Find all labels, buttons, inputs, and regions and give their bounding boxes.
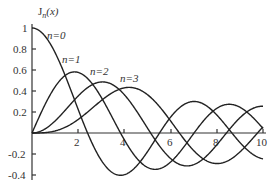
y-tick-1: 1 [22, 22, 28, 34]
y-axis-label: Jn(x) [38, 5, 59, 20]
x-tick-6: 6 [167, 136, 173, 148]
y-tick-0.8: 0.8 [13, 43, 27, 55]
label-n0: n=0 [47, 29, 66, 41]
bessel-chart: 1 0.8 0.6 0.4 0.2 -0.2 -0.4 2 4 6 8 10 J… [0, 0, 279, 195]
x-tick-10: 10 [256, 136, 268, 148]
label-n1: n=1 [62, 53, 80, 65]
bessel-curves [32, 28, 263, 175]
x-tick-2: 2 [74, 136, 80, 148]
label-n3: n=3 [120, 72, 139, 84]
y-tick-neg0.2: -0.2 [8, 148, 25, 160]
label-n2: n=2 [90, 65, 109, 77]
y-tick-0.4: 0.4 [13, 85, 27, 97]
y-tick-neg0.4: -0.4 [8, 169, 26, 181]
curve-n=1 [32, 72, 263, 169]
x-ticks: 2 4 6 8 10 [74, 129, 268, 148]
y-tick-0.2: 0.2 [13, 106, 27, 118]
curve-n=0 [32, 28, 263, 175]
y-tick-0.6: 0.6 [13, 64, 27, 76]
